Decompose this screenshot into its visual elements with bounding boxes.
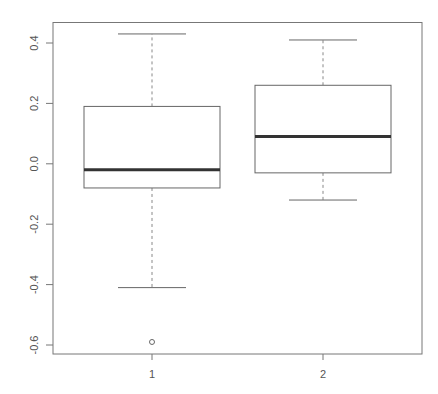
y-tick-label: -0.6 xyxy=(28,336,40,355)
y-tick-label: 0.4 xyxy=(28,35,40,50)
y-tick-label: -0.4 xyxy=(28,275,40,294)
outlier-point xyxy=(150,339,155,344)
y-tick-label: 0.2 xyxy=(28,96,40,111)
iqr-box xyxy=(84,106,220,188)
box-plot: 0.40.20.0-0.2-0.4-0.6 12 xyxy=(0,0,438,394)
y-tick-label: 0.0 xyxy=(28,156,40,171)
x-tick-label: 2 xyxy=(320,368,326,380)
box-group-1 xyxy=(84,34,220,345)
box-group-2 xyxy=(255,40,391,200)
iqr-box xyxy=(255,85,391,173)
x-axis: 12 xyxy=(149,354,326,380)
y-tick-label: -0.2 xyxy=(28,215,40,234)
boxes xyxy=(84,34,391,345)
x-tick-label: 1 xyxy=(149,368,155,380)
y-axis: 0.40.20.0-0.2-0.4-0.6 xyxy=(28,35,53,354)
